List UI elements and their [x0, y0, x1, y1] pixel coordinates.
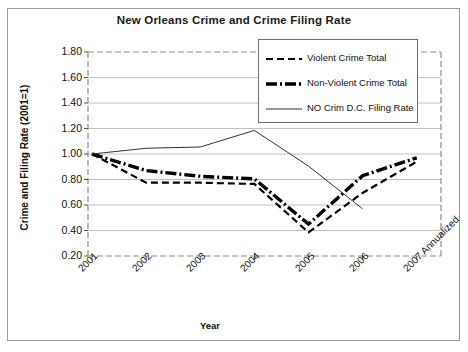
legend-swatch-icon: [264, 76, 304, 88]
chart-legend: Violent Crime TotalNon-Violent Crime Tot…: [258, 39, 418, 123]
y-tick-label: 1.80: [36, 45, 82, 57]
y-tick-label: 0.20: [36, 249, 82, 261]
legend-swatch-icon: [264, 101, 304, 113]
y-tick-label: 0.40: [36, 224, 82, 236]
y-tick-label: 0.80: [36, 173, 82, 185]
legend-label: Non-Violent Crime Total: [307, 77, 407, 88]
y-tick-label: 1.20: [36, 122, 82, 134]
y-tick-label: 1.40: [36, 96, 82, 108]
legend-item[interactable]: NO Crim D.C. Filing Rate: [259, 96, 419, 118]
legend-label: Violent Crime Total: [307, 52, 386, 63]
y-tick-label: 1.00: [36, 147, 82, 159]
legend-item[interactable]: Violent Crime Total: [259, 46, 419, 68]
chart-figure: New Orleans Crime and Crime Filing Rate …: [0, 0, 468, 352]
legend-label: NO Crim D.C. Filing Rate: [307, 102, 414, 113]
legend-swatch-icon: [264, 51, 304, 63]
legend-item[interactable]: Non-Violent Crime Total: [259, 71, 419, 93]
y-tick-label: 0.60: [36, 198, 82, 210]
y-tick-label: 1.60: [36, 71, 82, 83]
